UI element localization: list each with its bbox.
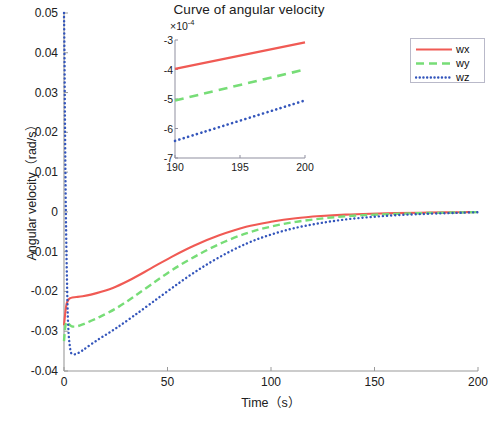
legend-item-wy[interactable]: wy xyxy=(411,56,484,71)
series-line-wx xyxy=(64,212,478,325)
legend-label-wy: wy xyxy=(456,58,469,69)
legend-label-wx: wx xyxy=(456,44,469,55)
inset-y-tick-label: -6 xyxy=(164,123,173,135)
legend-item-wz[interactable]: wz xyxy=(411,70,484,85)
legend-label-wz: wz xyxy=(456,72,469,83)
inset-x-tick-label: 195 xyxy=(231,161,249,173)
legend-swatch-wz xyxy=(415,72,453,83)
inset-x-tick-label: 190 xyxy=(166,161,184,173)
inset-x-tick-label: 200 xyxy=(296,161,314,173)
chart-figure: Curve of angular velocity Angular veloci… xyxy=(0,0,498,421)
inset-y-tick-label: -5 xyxy=(164,93,173,105)
legend-item-wx[interactable]: wx xyxy=(411,42,484,57)
inset-axes: ×10-4 -3-4-5-6-7190195200 xyxy=(158,34,306,158)
inset-exponent-label: ×10-4 xyxy=(170,18,194,32)
inset-y-tick-label: -3 xyxy=(164,34,173,46)
legend-swatch-wy xyxy=(415,58,453,69)
chart-legend[interactable]: wxwywz xyxy=(410,38,485,83)
inset-y-tick-label: -4 xyxy=(164,64,173,76)
legend-swatch-wx xyxy=(415,44,453,55)
